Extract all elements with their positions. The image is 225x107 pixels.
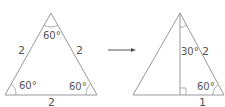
top-angle-arc — [180, 25, 186, 27]
base-label: 2 — [48, 96, 55, 107]
arrow-head-icon — [131, 48, 136, 52]
left-equilateral-triangle: 60° 2 2 60° 60° 2 — [5, 13, 97, 107]
bottom-left-angle-label: 60° — [19, 80, 37, 91]
left-side-label: 2 — [18, 44, 25, 57]
right-side-label: 2 — [202, 45, 209, 58]
bottom-right-angle-arc — [86, 84, 91, 95]
right-side-label: 2 — [76, 44, 83, 57]
bottom-left-angle-arc — [11, 84, 16, 95]
bottom-right-angle-label: 60° — [197, 81, 215, 92]
half-base-label: 1 — [199, 96, 206, 107]
right-bisected-triangle: 30° 2 60° 1 — [133, 13, 224, 107]
top-angle-label: 30° — [181, 46, 199, 57]
bottom-right-angle-label: 60° — [69, 81, 87, 92]
triangle-diagram: 60° 2 2 60° 60° 2 30° 2 60° 1 — [0, 0, 225, 107]
top-angle-label: 60° — [43, 30, 61, 41]
arrow — [108, 48, 136, 52]
top-angle-arc — [44, 25, 58, 27]
right-angle-marker — [180, 88, 186, 95]
